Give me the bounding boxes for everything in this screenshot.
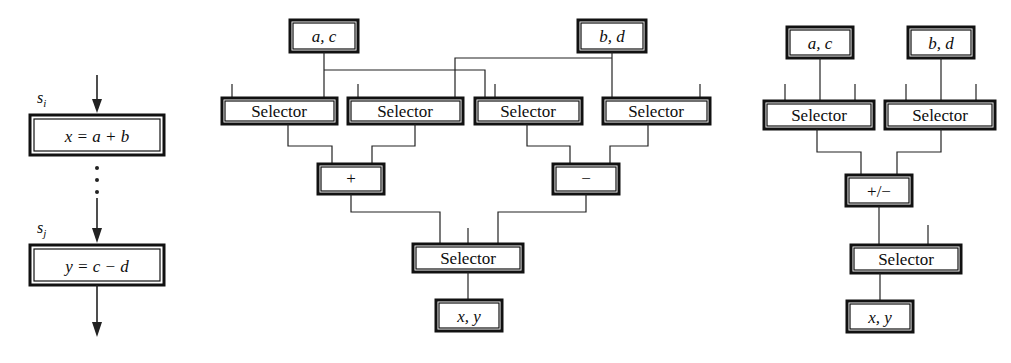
panel-shared-datapath: a, c b, d Selector Selector +/− xyxy=(764,27,995,332)
label-si: si xyxy=(37,89,46,109)
wire-ac-to-sel3 xyxy=(324,70,485,98)
operator-label-alu-right: +/− xyxy=(867,182,891,201)
reg-label-ac-mid: a, c xyxy=(312,27,337,46)
reg-label-bd-right: b, d xyxy=(928,34,954,53)
stmt-label-sj: y = c − d xyxy=(63,257,129,276)
flow-arrow-out-sj xyxy=(92,285,102,337)
selector-label-2-mid: Selector xyxy=(377,102,433,121)
selector-label-4-mid: Selector xyxy=(628,102,684,121)
reg-label-xy-mid: x, y xyxy=(456,307,481,326)
wire-sel1-to-add xyxy=(288,124,332,164)
wire-bd-to-sel2 xyxy=(455,58,612,98)
diagram-svg: si x = a + b sj y = c − d xyxy=(0,0,1011,363)
wire-sel1-to-alu-right xyxy=(817,129,861,175)
flow-arrow-in-si xyxy=(92,75,102,113)
wire-sel2-to-add xyxy=(372,124,415,164)
flow-arrow-in-sj xyxy=(92,198,102,243)
ellipsis-between-statements xyxy=(95,166,99,194)
operator-label-sub-mid: − xyxy=(581,169,591,188)
figure-canvas: si x = a + b sj y = c − d xyxy=(0,0,1011,363)
panel-source-statements: si x = a + b sj y = c − d xyxy=(30,75,164,337)
stmt-label-si: x = a + b xyxy=(64,127,130,146)
wire-sel3-to-sub xyxy=(527,124,570,164)
selector-label-out-right: Selector xyxy=(878,250,934,269)
selector-label-out-mid: Selector xyxy=(440,249,496,268)
panel-unshared-datapath: a, c b, d Selector Selector Selector Sel… xyxy=(222,20,710,331)
reg-label-ac-right: a, c xyxy=(808,34,833,53)
operator-label-add-mid: + xyxy=(346,169,356,188)
selector-label-2-right: Selector xyxy=(912,106,968,125)
wire-sel2-to-alu-right xyxy=(897,129,941,175)
reg-label-bd-mid: b, d xyxy=(599,27,625,46)
wire-sel4-to-sub xyxy=(610,124,648,164)
selector-label-3-mid: Selector xyxy=(500,102,556,121)
selector-label-1-mid: Selector xyxy=(251,102,307,121)
wire-add-to-outsel xyxy=(351,194,440,244)
selector-label-1-right: Selector xyxy=(791,106,847,125)
reg-label-xy-right: x, y xyxy=(867,308,892,327)
wire-sub-to-outsel xyxy=(498,194,586,244)
label-sj: sj xyxy=(37,219,46,239)
